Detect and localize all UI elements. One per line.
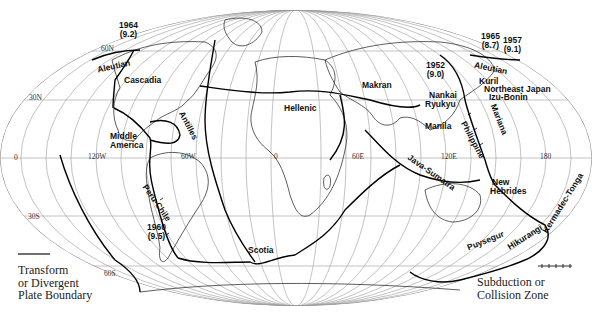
lon-180-label: 180 bbox=[540, 153, 551, 161]
label-middle-america-2: America bbox=[110, 141, 144, 150]
earthquake-1952: 1952 (9.0) bbox=[426, 61, 445, 79]
lat-30n-label: 30N bbox=[29, 94, 42, 102]
earthquake-magnitude: (9.5) bbox=[147, 232, 166, 241]
earthquake-magnitude: (9.2) bbox=[119, 30, 138, 39]
earthquake-magnitude: (9.0) bbox=[426, 70, 445, 79]
lat-0-label: 0 bbox=[14, 154, 18, 162]
earthquake-1965: 1965 (8.7) bbox=[481, 32, 500, 50]
label-manila: Manila bbox=[425, 122, 451, 131]
lon-120w-label: 120W bbox=[88, 153, 106, 161]
legend-transform-text: Transform or Divergent Plate Boundary bbox=[18, 264, 92, 302]
label-cascadia: Cascadia bbox=[124, 76, 161, 85]
lon-0-label: 0 bbox=[274, 153, 278, 161]
lat-30s-label: 30S bbox=[28, 213, 40, 221]
legend-subduction-text: Subduction or Collision Zone bbox=[477, 276, 549, 301]
label-scotia: Scotia bbox=[248, 246, 274, 255]
label-hellenic: Hellenic bbox=[284, 104, 317, 113]
label-ryukyu: Ryukyu bbox=[425, 100, 456, 109]
label-makran: Makran bbox=[362, 81, 392, 90]
label-new-hebrides-2: Hebrides bbox=[490, 187, 526, 196]
earthquake-1957: 1957 (9.1) bbox=[503, 36, 522, 54]
legend-subduction-line-icon bbox=[538, 264, 572, 268]
earthquake-magnitude: (8.7) bbox=[481, 41, 500, 50]
lat-60n-label: 60N bbox=[101, 45, 114, 53]
earthquake-1960: 1960 (9.5) bbox=[147, 223, 166, 241]
lon-120e-label: 120E bbox=[441, 153, 457, 161]
lat-60s-label: 60S bbox=[104, 270, 116, 278]
earthquake-magnitude: (9.1) bbox=[503, 45, 522, 54]
lon-60e-label: 60E bbox=[352, 153, 364, 161]
earthquake-1964: 1964 (9.2) bbox=[119, 21, 138, 39]
label-izu-bonin: Izu-Bonin bbox=[489, 93, 528, 102]
lon-60w-label: 60W bbox=[181, 153, 196, 161]
